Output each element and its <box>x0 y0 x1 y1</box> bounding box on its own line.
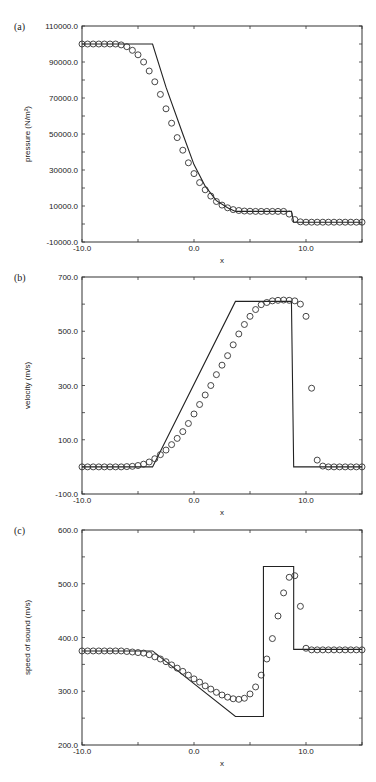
numerical-data-point <box>269 636 275 642</box>
x-axis-title: x <box>220 759 224 768</box>
numerical-data-point <box>213 372 219 378</box>
numerical-data-point <box>286 574 292 580</box>
chart-figure: (a)-10.00.010.0-10000.010000.030000.0500… <box>0 0 376 782</box>
y-tick-label: 500.0 <box>58 327 79 336</box>
pressure-chart: (a)-10.00.010.0-10000.010000.030000.0500… <box>14 21 365 265</box>
y-tick-label: 600.0 <box>58 526 79 535</box>
numerical-data-point <box>202 187 208 193</box>
numerical-data-point <box>152 654 158 660</box>
x-axis-title: x <box>220 256 224 265</box>
numerical-data-point <box>281 590 287 596</box>
y-tick-label: 30000.0 <box>49 166 78 175</box>
numerical-data-point <box>286 297 292 303</box>
y-axis-title: pressure (N/m²) <box>23 106 32 162</box>
numerical-data-point <box>247 691 253 697</box>
numerical-data-point <box>191 171 197 177</box>
numerical-data-point <box>191 676 197 682</box>
numerical-data-point <box>219 362 225 368</box>
numerical-data-point <box>180 668 186 674</box>
y-tick-label: 200.0 <box>58 741 79 750</box>
numerical-data-point <box>146 652 152 658</box>
panel-label: (a) <box>14 21 25 33</box>
numerical-data-point <box>185 672 191 678</box>
y-tick-label: -10000.0 <box>46 238 78 247</box>
y-tick-label: 700.0 <box>58 273 79 282</box>
numerical-data-point <box>320 463 326 469</box>
numerical-data-point <box>118 42 124 48</box>
numerical-data-point <box>241 321 247 327</box>
y-axis-title: speed of sound (m/s) <box>23 600 32 675</box>
numerical-data-point <box>185 420 191 426</box>
numerical-data-point <box>303 645 309 651</box>
y-tick-label: 100.0 <box>58 436 79 445</box>
numerical-data-point <box>185 160 191 166</box>
x-tick-label: 10.0 <box>298 496 314 505</box>
numerical-data-point <box>213 689 219 695</box>
numerical-data-point <box>264 299 270 305</box>
y-tick-label: 300.0 <box>58 687 79 696</box>
numerical-data-point <box>292 298 298 304</box>
panel-label: (b) <box>14 272 26 284</box>
numerical-data-point <box>191 411 197 417</box>
exact-solution-line <box>82 301 362 466</box>
numerical-data-point <box>208 383 214 389</box>
x-tick-label: 10.0 <box>298 747 314 756</box>
x-tick-label: 0.0 <box>188 244 200 253</box>
y-tick-label: 110000.0 <box>45 22 78 31</box>
numerical-data-point <box>141 461 147 467</box>
numerical-data-point <box>180 429 186 435</box>
numerical-data-point <box>258 302 264 308</box>
plot-frame <box>82 530 362 745</box>
numerical-data-point <box>197 679 203 685</box>
numerical-data-point <box>135 52 141 58</box>
numerical-data-point <box>281 297 287 303</box>
numerical-data-point <box>202 683 208 689</box>
numerical-data-point <box>163 447 169 453</box>
numerical-data-point <box>197 401 203 407</box>
numerical-data-point <box>208 686 214 692</box>
exact-solution-line <box>82 44 362 222</box>
x-tick-label: 10.0 <box>298 244 314 253</box>
plot-frame <box>82 26 362 242</box>
numerical-data-point <box>297 301 303 307</box>
numerical-data-point <box>124 44 130 50</box>
y-tick-label: 50000.0 <box>49 130 78 139</box>
y-tick-label: -100.0 <box>55 490 78 499</box>
numerical-data-point <box>241 695 247 701</box>
numerical-data-point <box>129 649 135 655</box>
numerical-data-point <box>180 147 186 153</box>
exact-solution-line <box>82 567 362 717</box>
numerical-data-point <box>174 435 180 441</box>
y-tick-label: 90000.0 <box>49 58 78 67</box>
numerical-data-point <box>163 106 169 112</box>
x-tick-label: 0.0 <box>188 747 200 756</box>
numerical-data-point <box>202 392 208 398</box>
y-axis-title: velocity (m/s) <box>23 362 32 409</box>
y-tick-label: 70000.0 <box>49 94 78 103</box>
numerical-data-point <box>309 385 315 391</box>
numerical-data-point <box>292 573 298 579</box>
numerical-data-point <box>225 353 231 359</box>
x-axis-title: x <box>220 508 224 517</box>
numerical-data-point <box>174 135 180 141</box>
y-tick-label: 400.0 <box>58 634 79 643</box>
numerical-data-point <box>303 313 309 319</box>
numerical-data-point <box>275 613 281 619</box>
numerical-data-point <box>236 331 242 337</box>
numerical-data-point <box>236 208 242 214</box>
y-tick-label: 300.0 <box>58 382 79 391</box>
numerical-data-point <box>264 656 270 662</box>
y-tick-label: 500.0 <box>58 580 79 589</box>
numerical-data-point <box>197 180 203 186</box>
numerical-data-point <box>169 442 175 448</box>
numerical-data-point <box>129 47 135 53</box>
y-tick-label: 10000.0 <box>49 202 78 211</box>
numerical-data-point <box>247 313 253 319</box>
numerical-data-point <box>152 79 158 85</box>
numerical-data-point <box>275 297 281 303</box>
numerical-data-point <box>286 211 292 217</box>
numerical-data-point <box>157 91 163 97</box>
panel-label: (c) <box>14 525 25 537</box>
numerical-data-point <box>135 463 141 469</box>
numerical-data-point <box>236 696 242 702</box>
